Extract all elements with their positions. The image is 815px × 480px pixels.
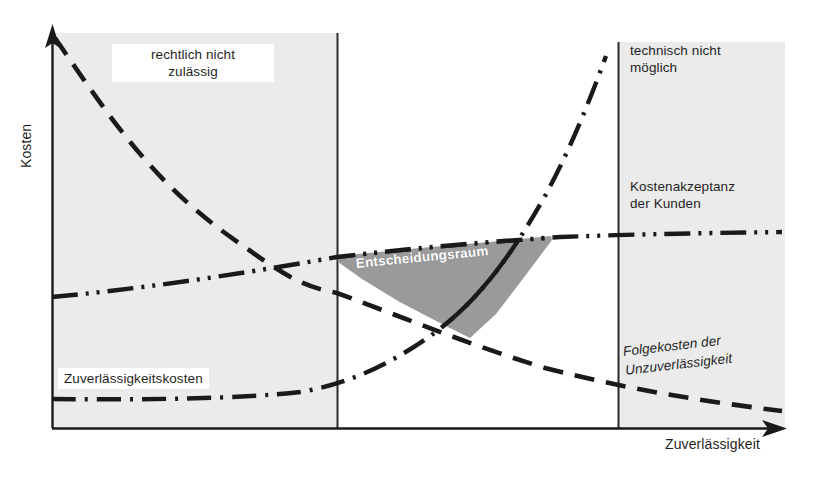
- curve-label-kostenakzeptanz-line2: der Kunden: [630, 195, 795, 212]
- curve-label-zuverlaessigkeitskosten: Zuverlässigkeitskosten: [58, 368, 209, 389]
- x-axis-label: Zuverlässigkeit: [665, 436, 760, 453]
- zone-label-right-line2: möglich: [630, 59, 790, 76]
- reliability-cost-diagram: Kosten Zuverlässigkeit rechtlich nicht z…: [0, 0, 815, 480]
- curve-label-kostenakzeptanz: Kostenakzeptanz der Kunden: [630, 178, 795, 212]
- y-axis-label: Kosten: [18, 58, 35, 168]
- zone-label-right: technisch nicht möglich: [630, 42, 790, 76]
- curve-label-kostenakzeptanz-line1: Kostenakzeptanz: [630, 178, 795, 195]
- zone-label-left: rechtlich nicht zulässig: [112, 44, 274, 82]
- zone-label-left-line2: zulässig: [118, 63, 268, 80]
- zone-label-left-line1: rechtlich nicht: [118, 46, 268, 63]
- zone-label-right-line1: technisch nicht: [630, 42, 790, 59]
